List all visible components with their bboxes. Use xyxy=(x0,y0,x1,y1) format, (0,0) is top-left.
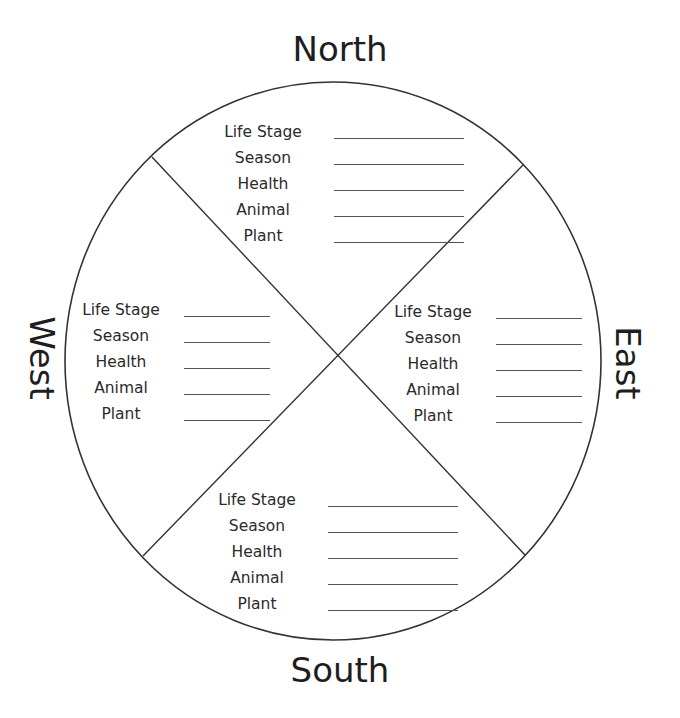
answer-blank[interactable] xyxy=(496,396,582,397)
direction-north-label: North xyxy=(0,32,680,66)
field-row: Life Stage xyxy=(196,484,458,510)
direction-west-label: West xyxy=(25,316,59,400)
field-row: Plant xyxy=(66,398,270,424)
field-label: Season xyxy=(202,148,324,168)
field-label: Season xyxy=(196,516,318,536)
field-row: Health xyxy=(202,168,464,194)
field-row: Season xyxy=(202,142,464,168)
field-row: Health xyxy=(196,536,458,562)
field-label: Life Stage xyxy=(380,302,486,322)
quadrant-south: Life Stage Season Health Animal Plant xyxy=(196,484,458,614)
answer-blank[interactable] xyxy=(328,558,458,559)
field-row: Season xyxy=(196,510,458,536)
answer-blank[interactable] xyxy=(184,394,270,395)
field-label: Health xyxy=(196,542,318,562)
field-label: Animal xyxy=(66,378,176,398)
field-label: Season xyxy=(380,328,486,348)
field-row: Life Stage xyxy=(202,116,464,142)
answer-blank[interactable] xyxy=(184,420,270,421)
answer-blank[interactable] xyxy=(328,584,458,585)
field-row: Season xyxy=(380,322,582,348)
field-label: Health xyxy=(380,354,486,374)
field-row: Life Stage xyxy=(66,294,270,320)
answer-blank[interactable] xyxy=(328,532,458,533)
quadrant-east: Life Stage Season Health Animal Plant xyxy=(380,296,582,426)
answer-blank[interactable] xyxy=(328,506,458,507)
field-label: Plant xyxy=(196,594,318,614)
field-label: Animal xyxy=(196,568,318,588)
answer-blank[interactable] xyxy=(334,190,464,191)
answer-blank[interactable] xyxy=(496,318,582,319)
answer-blank[interactable] xyxy=(496,422,582,423)
field-row: Health xyxy=(66,346,270,372)
field-label: Animal xyxy=(380,380,486,400)
answer-blank[interactable] xyxy=(496,344,582,345)
field-label: Plant xyxy=(66,404,176,424)
field-row: Plant xyxy=(380,400,582,426)
field-row: Animal xyxy=(196,562,458,588)
field-label: Animal xyxy=(202,200,324,220)
field-row: Animal xyxy=(380,374,582,400)
answer-blank[interactable] xyxy=(334,164,464,165)
answer-blank[interactable] xyxy=(334,216,464,217)
field-label: Life Stage xyxy=(202,122,324,142)
field-row: Animal xyxy=(202,194,464,220)
answer-blank[interactable] xyxy=(184,342,270,343)
field-row: Plant xyxy=(196,588,458,614)
field-label: Season xyxy=(66,326,176,346)
field-label: Life Stage xyxy=(196,490,318,510)
answer-blank[interactable] xyxy=(334,242,464,243)
quadrant-west: Life Stage Season Health Animal Plant xyxy=(66,294,270,424)
field-label: Health xyxy=(66,352,176,372)
field-row: Health xyxy=(380,348,582,374)
answer-blank[interactable] xyxy=(184,368,270,369)
quadrant-north: Life Stage Season Health Animal Plant xyxy=(202,116,464,246)
field-row: Life Stage xyxy=(380,296,582,322)
answer-blank[interactable] xyxy=(496,370,582,371)
field-label: Plant xyxy=(380,406,486,426)
field-row: Plant xyxy=(202,220,464,246)
field-row: Animal xyxy=(66,372,270,398)
answer-blank[interactable] xyxy=(328,610,458,611)
answer-blank[interactable] xyxy=(334,138,464,139)
field-label: Plant xyxy=(202,226,324,246)
direction-south-label: South xyxy=(0,653,680,687)
answer-blank[interactable] xyxy=(184,316,270,317)
direction-east-label: East xyxy=(611,326,645,399)
field-row: Season xyxy=(66,320,270,346)
field-label: Health xyxy=(202,174,324,194)
field-label: Life Stage xyxy=(66,300,176,320)
